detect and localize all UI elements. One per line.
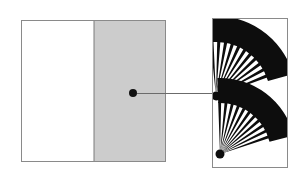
detail-callout-diagram xyxy=(0,0,303,181)
detail-panel-group xyxy=(208,16,294,168)
callout-dot xyxy=(129,89,137,97)
fan-lower-pivot xyxy=(216,150,225,159)
overview-panel-group xyxy=(21,20,166,162)
